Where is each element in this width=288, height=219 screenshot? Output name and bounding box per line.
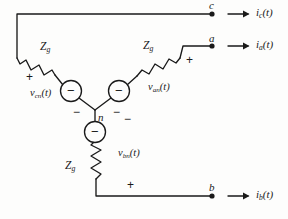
impedance-label-zg-b: Zg — [65, 160, 75, 173]
current-arg-ia: (t) — [263, 38, 273, 50]
current-label-ia: ia(t) — [256, 39, 273, 51]
voltage-arg-van: (t) — [160, 81, 170, 92]
resistor-zg-a — [137, 58, 180, 76]
impedance-label-zg-c: Zg — [40, 41, 50, 54]
source-inner-sign-van: − — [115, 84, 123, 97]
resistor-zg-b — [91, 140, 101, 179]
voltage-subscript-vbn: bn — [123, 152, 130, 160]
polarity-plus-van: + — [186, 54, 193, 66]
circuit-schematic-canvas — [0, 0, 288, 219]
voltage-arg-vcn: (t) — [41, 87, 51, 98]
voltage-label-vcn: vcn(t) — [30, 88, 51, 100]
impedance-label-zg-a: Zg — [143, 40, 153, 53]
impedance-subscript-zg-b: g — [71, 164, 75, 173]
current-arrow-head-a — [243, 43, 250, 50]
circuit-diagram: c a b ic(t) ia(t) ib(t) Zg Zg Zg vcn(t) … — [0, 0, 288, 219]
current-arg-ic: (t) — [262, 6, 272, 18]
impedance-subscript-zg-a: g — [149, 44, 153, 53]
current-label-ic: ic(t) — [256, 7, 273, 19]
polarity-minus-vcn: − — [73, 106, 80, 118]
neutral-node-label: n — [98, 112, 104, 123]
voltage-subscript-van: an — [153, 86, 160, 94]
terminal-dot-c — [209, 11, 214, 16]
terminal-label-c: c — [209, 0, 214, 11]
wire-vcn-to-node-n — [79, 98, 95, 110]
wire-vcn-to-zg-c — [55, 75, 63, 85]
current-arrow-head-b — [243, 193, 250, 200]
polarity-minus-vbn: − — [124, 113, 131, 125]
polarity-minus-van: − — [113, 106, 120, 118]
source-inner-sign-vbn: − — [91, 125, 99, 138]
polarity-plus-vbn: + — [127, 179, 134, 191]
current-arg-ib: (t) — [263, 188, 273, 200]
terminal-label-b: b — [209, 182, 215, 193]
wire-van-to-node-n — [95, 98, 111, 110]
voltage-label-vbn: vbn(t) — [118, 148, 140, 160]
voltage-arg-vbn: (t) — [130, 147, 140, 158]
resistor-zg-c — [17, 58, 55, 75]
terminal-dot-a — [209, 43, 214, 48]
polarity-plus-vcn: + — [26, 71, 33, 83]
impedance-subscript-zg-c: g — [46, 45, 50, 54]
wire-zg-a-to-terminal-a — [180, 46, 212, 58]
terminal-label-a: a — [209, 33, 215, 44]
current-label-ib: ib(t) — [256, 189, 273, 201]
current-arrow-head-c — [243, 11, 250, 18]
voltage-label-van: van(t) — [148, 82, 170, 94]
wire-zg-b-to-terminal-b — [96, 179, 212, 196]
source-inner-sign-vcn: − — [67, 84, 75, 97]
wire-van-to-zg-a — [127, 76, 137, 85]
terminal-dot-b — [209, 193, 214, 198]
